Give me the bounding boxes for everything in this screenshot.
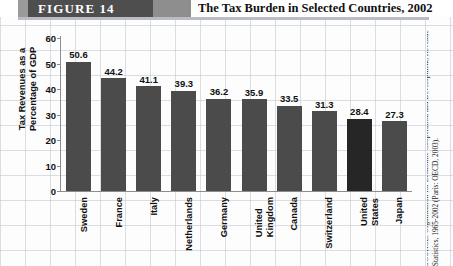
bar[interactable] xyxy=(171,91,196,191)
bar[interactable] xyxy=(66,62,91,191)
y-tick-label: 10 xyxy=(34,160,56,171)
bar-value-label: 35.9 xyxy=(237,87,272,98)
bar[interactable] xyxy=(347,119,372,191)
x-category-label: Germany xyxy=(219,197,230,237)
bar-group[interactable]: 31.3 xyxy=(307,38,342,191)
x-label-slot: Sweden xyxy=(61,195,96,265)
x-axis-category-labels: SwedenFranceItalyNetherlandsGermanyUnite… xyxy=(61,195,412,265)
y-tick-label: 0 xyxy=(34,186,56,197)
y-tick-label: 40 xyxy=(34,84,56,95)
y-tick-label: 20 xyxy=(34,135,56,146)
figure-page: FIGURE 14 The Tax Burden in Selected Cou… xyxy=(0,0,453,266)
figure-title: The Tax Burden in Selected Countries, 20… xyxy=(198,1,432,16)
bar-group[interactable]: 27.3 xyxy=(377,38,412,191)
bar-value-label: 41.1 xyxy=(131,74,166,85)
figure-header: FIGURE 14 The Tax Burden in Selected Cou… xyxy=(0,0,453,17)
bar-value-label: 36.2 xyxy=(201,86,236,97)
x-axis-line xyxy=(60,191,412,192)
bar[interactable] xyxy=(312,111,337,191)
plot-area: 50.644.241.139.336.235.933.531.328.427.3 xyxy=(61,38,412,191)
x-label-slot: United States xyxy=(342,195,377,265)
y-tick-label: 30 xyxy=(34,109,56,120)
x-category-label: Switzerland xyxy=(324,197,335,249)
bar-value-label: 31.3 xyxy=(307,99,342,110)
x-category-label: Netherlands xyxy=(184,197,195,251)
bar-value-label: 50.6 xyxy=(61,49,96,60)
y-tick-label: 50 xyxy=(34,58,56,69)
bar-value-label: 44.2 xyxy=(96,66,131,77)
x-category-label: Italy xyxy=(149,197,160,216)
bar-group[interactable]: 39.3 xyxy=(166,38,201,191)
x-label-slot: Netherlands xyxy=(166,195,201,265)
x-category-label: Sweden xyxy=(79,197,90,232)
bar[interactable] xyxy=(136,86,161,191)
bar-group[interactable]: 33.5 xyxy=(272,38,307,191)
bar-value-label: 39.3 xyxy=(166,78,201,89)
header-divider xyxy=(18,17,429,20)
bar-group[interactable]: 28.4 xyxy=(342,38,377,191)
x-label-slot: Switzerland xyxy=(307,195,342,265)
bar-chart: Tax Revenues as a Percentage of GDP 6050… xyxy=(0,22,420,266)
x-label-slot: Japan xyxy=(377,195,412,265)
y-axis-tick-labels: 6050403020100 xyxy=(34,38,56,190)
bar-group[interactable]: 36.2 xyxy=(201,38,236,191)
bar-group[interactable]: 50.6 xyxy=(61,38,96,191)
bar-group[interactable]: 41.1 xyxy=(131,38,166,191)
bar[interactable] xyxy=(101,78,126,191)
x-label-slot: Italy xyxy=(131,195,166,265)
bar-value-label: 28.4 xyxy=(342,106,377,117)
x-category-label: France xyxy=(114,197,125,228)
bar[interactable] xyxy=(382,121,407,191)
source-note: SOURCE: Organization for Economic Cooper… xyxy=(427,22,440,266)
bar-group[interactable]: 35.9 xyxy=(237,38,272,191)
x-label-slot: Germany xyxy=(201,195,236,265)
bar-value-label: 33.5 xyxy=(272,93,307,104)
x-category-label: Japan xyxy=(394,197,405,224)
bar-value-label: 27.3 xyxy=(377,109,412,120)
bar-group[interactable]: 44.2 xyxy=(96,38,131,191)
figure-number-label: FIGURE 14 xyxy=(38,1,115,17)
x-category-label: Canada xyxy=(289,197,300,231)
source-note-container: SOURCE: Organization for Economic Cooper… xyxy=(427,18,453,266)
x-label-slot: France xyxy=(96,195,131,265)
y-tick-label: 60 xyxy=(34,33,56,44)
x-label-slot: Canada xyxy=(272,195,307,265)
bar[interactable] xyxy=(242,99,267,191)
bar[interactable] xyxy=(206,99,231,191)
bar[interactable] xyxy=(277,106,302,191)
x-label-slot: United Kingdom xyxy=(237,195,272,265)
